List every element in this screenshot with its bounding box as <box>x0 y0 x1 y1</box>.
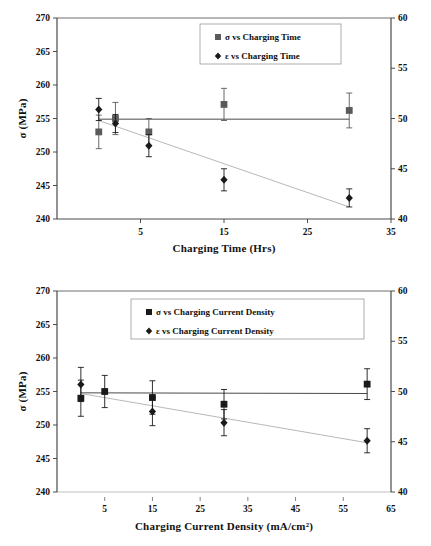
x-tick-label: 25 <box>195 504 205 514</box>
y-tick-label-left: 255 <box>36 387 51 397</box>
data-point <box>101 375 108 407</box>
data-point <box>364 429 371 453</box>
y-tick-label-right: 50 <box>398 387 408 397</box>
marker-diamond <box>346 194 353 202</box>
y-tick-label-right: 55 <box>398 63 408 73</box>
y-tick-label-left: 240 <box>36 214 51 224</box>
data-point <box>220 169 227 191</box>
y-tick-label-left: 270 <box>36 13 51 23</box>
x-tick-label: 15 <box>148 504 158 514</box>
y-tick-label-left: 260 <box>36 353 51 363</box>
y-tick-label-right: 55 <box>398 336 408 346</box>
y-tick-label-right: 60 <box>398 286 408 296</box>
x-tick-label: 55 <box>339 504 349 514</box>
marker-square <box>346 107 353 114</box>
y-tick-label-left: 245 <box>36 454 51 464</box>
data-point <box>221 88 228 120</box>
marker-diamond <box>77 380 84 388</box>
x-axis: 5152535 <box>138 219 396 237</box>
x-tick-label: 35 <box>386 227 396 237</box>
x-tick-label: 45 <box>291 504 301 514</box>
series-diamond-1 <box>77 367 370 452</box>
legend-label: ε vs Charging Current Density <box>156 326 274 336</box>
marker-diamond <box>220 176 227 184</box>
data-point <box>95 98 102 120</box>
data-point <box>364 369 371 400</box>
y-tick-label-left: 260 <box>36 80 51 90</box>
chart-current-density: 2402452502552602652704045505560515253545… <box>0 273 431 546</box>
legend-label: σ vs Charging Current Density <box>156 307 275 317</box>
legend: σ vs Charging Current Densityε vs Chargi… <box>131 299 364 339</box>
x-axis-title: Charging Current Density (mA/cm²) <box>135 520 313 533</box>
data-point <box>346 93 353 128</box>
x-axis-title: Charging Time (Hrs) <box>172 242 275 255</box>
marker-square <box>221 101 228 108</box>
y-tick-label-right: 45 <box>398 164 408 174</box>
x-axis: 5152535455565 <box>102 497 396 514</box>
legend: σ vs Charging Timeε vs Charging Time <box>200 24 341 64</box>
legend-label: ε vs Charging Time <box>225 51 300 61</box>
y-tick-label-left: 265 <box>36 320 51 330</box>
y-tick-label-left: 250 <box>36 420 51 430</box>
x-tick-label: 35 <box>243 504 253 514</box>
y-axis-title: σ (MPa) <box>16 98 29 138</box>
x-tick-label: 5 <box>138 227 143 237</box>
marker-square <box>95 129 102 136</box>
x-tick-label: 5 <box>102 504 107 514</box>
y-tick-label-right: 45 <box>398 437 408 447</box>
marker-square <box>221 401 228 408</box>
x-tick-label: 65 <box>386 504 396 514</box>
series-square-0 <box>95 88 352 148</box>
marker-diamond <box>95 105 102 113</box>
marker-diamond <box>364 437 371 445</box>
y-tick-label-left: 245 <box>36 181 51 191</box>
marker-square <box>364 381 371 388</box>
y-tick-label-left: 265 <box>36 47 51 57</box>
y-axis-right: 4045505560 <box>391 13 408 224</box>
chart-canvas-charging-time: 24024525025526026527040455055605152535Ch… <box>0 0 431 273</box>
x-tick-label: 25 <box>303 227 313 237</box>
x-tick-label: 15 <box>219 227 229 237</box>
legend-marker-square <box>146 309 152 315</box>
data-point <box>149 398 156 426</box>
y-tick-label-left: 270 <box>36 286 51 296</box>
chart-charging-time: 24024525025526026527040455055605152535Ch… <box>0 0 431 273</box>
data-point <box>346 189 353 207</box>
marker-square <box>101 388 108 395</box>
legend-marker-square <box>215 34 221 40</box>
y-tick-label-left: 255 <box>36 114 51 124</box>
y-axis-left: 240245250255260265270 <box>36 13 57 224</box>
y-tick-label-right: 40 <box>398 487 408 497</box>
marker-diamond <box>220 419 227 427</box>
y-axis-title: σ (MPa) <box>16 371 29 411</box>
trend-line-series-1 <box>99 121 350 207</box>
y-tick-label-left: 250 <box>36 147 51 157</box>
data-point <box>220 410 227 436</box>
y-tick-label-right: 50 <box>398 114 408 124</box>
marker-diamond <box>145 142 152 150</box>
y-axis-left: 240245250255260265270 <box>36 286 57 497</box>
y-tick-label-left: 240 <box>36 487 51 497</box>
legend-label: σ vs Charging Time <box>225 32 301 42</box>
y-axis-right: 4045505560 <box>391 286 408 497</box>
y-tick-label-right: 40 <box>398 214 408 224</box>
y-tick-label-right: 60 <box>398 13 408 23</box>
chart-canvas-current-density: 2402452502552602652704045505560515253545… <box>0 273 431 546</box>
data-point <box>145 135 152 157</box>
